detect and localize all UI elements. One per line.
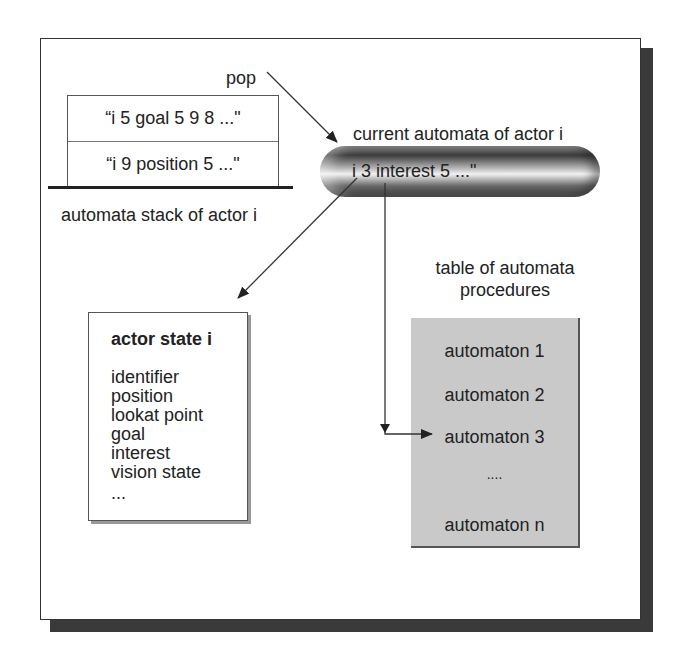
dispatch-line	[385, 183, 432, 434]
actor-state-arrow	[238, 178, 357, 298]
pop-arrow	[267, 72, 337, 142]
connector-arrows	[0, 0, 688, 663]
dispatch-corner-arrow	[380, 424, 390, 433]
